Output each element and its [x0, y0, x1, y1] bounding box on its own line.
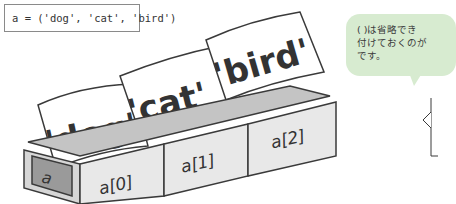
character-partial	[423, 98, 438, 156]
card-bird: 'bird'	[206, 12, 324, 100]
